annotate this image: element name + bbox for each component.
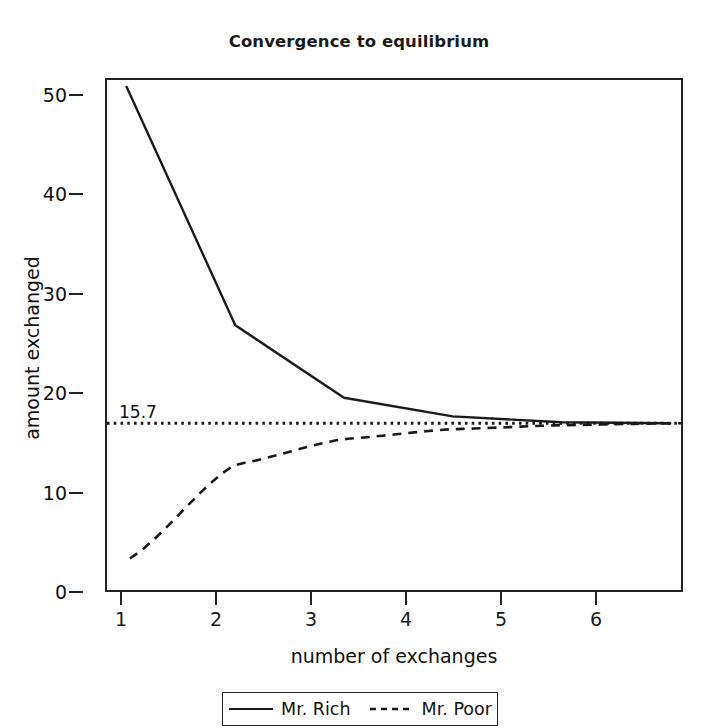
x-tick-label-3: 3 bbox=[305, 608, 317, 630]
x-tick-mark-2 bbox=[215, 592, 217, 605]
x-tick-label-1: 1 bbox=[115, 608, 127, 630]
plot-area: 15.7 bbox=[105, 78, 683, 592]
x-tick-mark-5 bbox=[500, 592, 502, 605]
legend-entry-mr-poor: Mr. Poor bbox=[369, 699, 492, 719]
legend-entry-mr-rich: Mr. Rich bbox=[228, 699, 351, 719]
equilibrium-label: 15.7 bbox=[119, 402, 157, 422]
x-tick-mark-3 bbox=[310, 592, 312, 605]
series-line-mr-rich bbox=[127, 87, 671, 423]
x-tick-mark-4 bbox=[405, 592, 407, 605]
legend-swatch-solid-icon bbox=[228, 703, 274, 715]
x-tick-label-5: 5 bbox=[495, 608, 507, 630]
x-tick-label-2: 2 bbox=[210, 608, 222, 630]
legend: Mr. Rich Mr. Poor bbox=[222, 692, 498, 726]
plot-canvas bbox=[107, 80, 681, 590]
y-axis-label: amount exchanged bbox=[21, 138, 43, 558]
legend-label-mr-poor: Mr. Poor bbox=[422, 699, 492, 719]
x-tick-label-4: 4 bbox=[400, 608, 412, 630]
series-line-mr-poor bbox=[130, 423, 681, 558]
legend-label-mr-rich: Mr. Rich bbox=[281, 699, 351, 719]
x-tick-label-6: 6 bbox=[590, 608, 602, 630]
legend-swatch-dashed-icon bbox=[369, 703, 415, 715]
x-tick-mark-6 bbox=[595, 592, 597, 605]
x-axis-label: number of exchanges bbox=[105, 645, 683, 667]
chart-figure: Convergence to equilibrium 50 40 30 20 1… bbox=[0, 0, 718, 728]
x-tick-mark-1 bbox=[120, 592, 122, 605]
